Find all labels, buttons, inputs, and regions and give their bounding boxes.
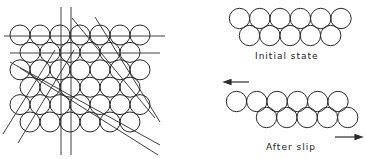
arrow-right-icon	[335, 135, 362, 140]
atom-circle	[256, 107, 276, 127]
slip-lines	[3, 7, 165, 155]
atom-circle	[70, 60, 90, 80]
atom-circle	[50, 60, 70, 80]
atom-circle	[267, 91, 287, 111]
slip-line	[10, 62, 160, 145]
atom-circle	[317, 107, 337, 127]
atom-circle	[110, 25, 130, 45]
atom-circle	[40, 42, 60, 62]
atom-circle	[300, 25, 320, 45]
atom-circle	[20, 42, 40, 62]
atom-circle	[60, 112, 80, 132]
atom-circle	[90, 25, 110, 45]
atom-circle	[10, 95, 30, 115]
atom-circle	[30, 95, 50, 115]
atom-circle	[321, 25, 341, 45]
atom-circle	[226, 91, 246, 111]
atom-circle	[10, 25, 30, 45]
atom-circle	[260, 25, 280, 45]
atom-circle	[40, 112, 60, 132]
atom-circle	[60, 42, 80, 62]
packing-diagram	[0, 0, 366, 159]
atom-circle	[50, 25, 70, 45]
atom-circle	[20, 77, 40, 97]
after-slip-label: After slip	[266, 142, 316, 152]
atom-circle	[297, 107, 317, 127]
atom-circle	[239, 25, 259, 45]
atom-circle	[80, 112, 100, 132]
atom-circle	[130, 25, 150, 45]
atom-circle	[308, 91, 328, 111]
atom-circle	[130, 60, 150, 80]
atom-circle	[247, 91, 267, 111]
atom-circle	[110, 60, 130, 80]
atom-circle	[30, 25, 50, 45]
after-slip-rows	[226, 91, 358, 127]
atom-circle	[328, 91, 348, 111]
initial-state-label: Initial state	[255, 51, 319, 61]
arrow-left-icon	[224, 80, 249, 85]
close-packed-layer	[10, 25, 150, 132]
atom-circle	[120, 112, 140, 132]
atom-circle	[80, 42, 100, 62]
atom-circle	[130, 95, 150, 115]
atom-circle	[338, 107, 358, 127]
atom-circle	[120, 42, 140, 62]
atom-circle	[60, 77, 80, 97]
atom-circle	[280, 25, 300, 45]
atom-circle	[80, 77, 100, 97]
atom-circle	[287, 91, 307, 111]
initial-state-rows	[229, 8, 351, 45]
atom-circle	[10, 60, 30, 80]
atom-circle	[277, 107, 297, 127]
atom-circle	[110, 95, 130, 115]
atom-circle	[100, 77, 120, 97]
atom-circle	[90, 60, 110, 80]
atom-circle	[20, 112, 40, 132]
